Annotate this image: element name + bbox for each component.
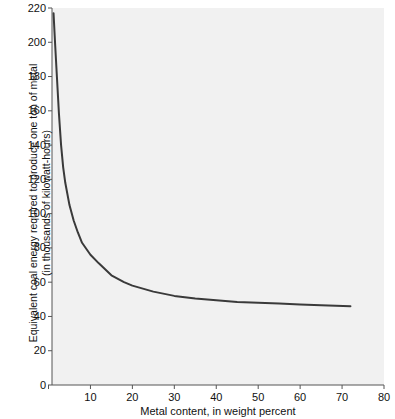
x-axis-title: Metal content, in weight percent xyxy=(52,405,384,417)
plot-svg xyxy=(0,0,395,419)
data-curve xyxy=(54,13,351,306)
x-tick-label-80: 80 xyxy=(369,392,395,403)
y-axis-title-line-1: Equivalent coal energy required to produ… xyxy=(27,8,40,398)
axis-lines xyxy=(52,8,384,385)
x-tick-label-50: 50 xyxy=(243,392,273,403)
x-tick-label-70: 70 xyxy=(327,392,357,403)
tick-marks xyxy=(48,8,384,389)
chart-figure: 020406080100120140160180200220 102030405… xyxy=(0,0,395,419)
x-tick-label-40: 40 xyxy=(201,392,231,403)
x-tick-label-10: 10 xyxy=(75,392,105,403)
y-axis-title-line-2: (in thousands of kilowatt-hours) xyxy=(40,8,53,398)
y-axis-title: Equivalent coal energy required to produ… xyxy=(27,8,53,398)
x-tick-label-20: 20 xyxy=(117,392,147,403)
x-tick-label-30: 30 xyxy=(159,392,189,403)
x-tick-label-60: 60 xyxy=(285,392,315,403)
series-line xyxy=(54,13,351,306)
